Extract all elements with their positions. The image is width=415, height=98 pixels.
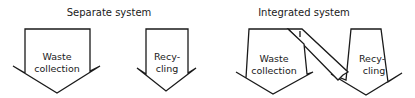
arrow-label-line1: Waste bbox=[42, 51, 71, 62]
integrated-system: Integrated system Recy- cling Waste coll… bbox=[236, 7, 402, 95]
arrow-label-line1: Recy- bbox=[359, 53, 385, 64]
arrow-label-line2: collection bbox=[34, 63, 80, 74]
arrow-label-line2: cling bbox=[156, 63, 179, 74]
arrow-label-line1: Waste bbox=[259, 53, 288, 64]
separate-recycling-arrow: Recy- cling bbox=[137, 29, 196, 91]
arrow-label-line2: cling bbox=[363, 65, 386, 76]
arrow-label-line2: collection bbox=[251, 65, 297, 76]
separate-system: Separate system Waste collection Recy- c… bbox=[13, 7, 196, 93]
integrated-system-title: Integrated system bbox=[258, 7, 350, 18]
separate-system-title: Separate system bbox=[67, 7, 152, 18]
diagram-canvas: Separate system Waste collection Recy- c… bbox=[0, 0, 415, 98]
integrated-recycling-arrow: Recy- cling bbox=[331, 29, 402, 95]
arrow-label-line1: Recy- bbox=[154, 51, 180, 62]
separate-waste-collection-arrow: Waste collection bbox=[13, 29, 100, 93]
